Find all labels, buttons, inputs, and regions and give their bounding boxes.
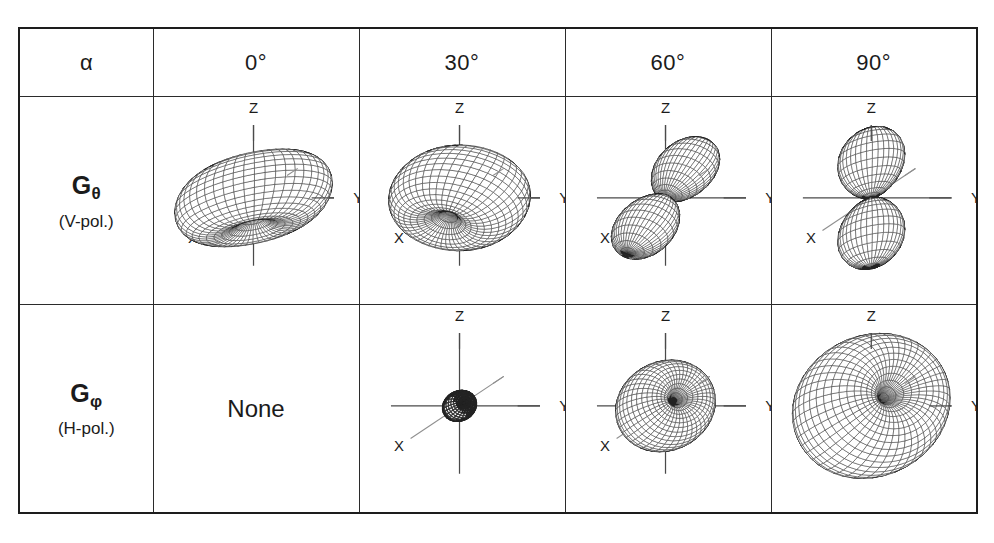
plot-two-lobes-vertical: ZYX (772, 97, 977, 304)
plot-cell-gtheta-30: ZYX (359, 97, 565, 305)
row-label-g: G (72, 171, 92, 199)
mesh-surface (174, 149, 331, 247)
angle-label-60: 60° (651, 50, 686, 75)
radiation-pattern-svg: ZYX (566, 305, 771, 512)
header-cell-alpha: α (19, 28, 153, 97)
plot-cell-gtheta-0: ZYX (153, 97, 359, 305)
axis-label-y: Y (970, 190, 976, 206)
axis-label-y: Y (559, 189, 565, 206)
axis-label-z: Z (660, 99, 669, 116)
row-label-main: Gφ (20, 375, 153, 414)
plot-torus-vertical-big: ZYX (772, 305, 977, 512)
mesh-surface (615, 360, 715, 452)
axis-label-z: Z (454, 99, 463, 116)
pattern-table: α 0° 30° 60° 90° Gθ (18, 27, 978, 514)
plot-tiny-blob: ZYX (360, 305, 565, 512)
axis-label-x: X (599, 437, 609, 454)
plot-two-lobes-tilted: ZYX (566, 97, 771, 304)
table-row-g-theta: Gθ (V-pol.) ZYX ZYX ZYX ZYX (19, 97, 977, 305)
plot-cell-gtheta-90: ZYX (771, 97, 977, 305)
angle-label-90: 90° (856, 50, 891, 75)
angle-label-30: 30° (445, 50, 480, 75)
axis-label-x: X (805, 231, 815, 247)
axis-label-y: Y (970, 398, 976, 414)
axis-label-y: Y (765, 397, 771, 414)
radiation-pattern-figure: α 0° 30° 60° 90° Gθ (18, 27, 975, 514)
plot-cell-gphi-0: None (153, 305, 359, 513)
row-label-content: Gθ (V-pol.) (20, 167, 153, 234)
row-label-g-phi: Gφ (H-pol.) (19, 305, 153, 513)
radiation-pattern-svg: ZYX (566, 97, 771, 304)
header-cell-angle-0: 0° (153, 28, 359, 97)
axis-label-z: Z (454, 307, 463, 324)
axis-label-x: X (599, 230, 609, 247)
radiation-pattern-svg: ZYX (772, 305, 977, 512)
row-label-g: G (70, 379, 90, 407)
axis-label-x: X (393, 437, 403, 454)
plot-torus-vertical-mid: ZYX (566, 305, 771, 512)
plot-torus-tilted-30: ZYX (360, 97, 565, 304)
row-label-content: Gφ (H-pol.) (20, 375, 153, 442)
axis-label-z: Z (866, 101, 875, 117)
radiation-pattern-svg: ZYX (360, 305, 565, 512)
row-label-g-theta: Gθ (V-pol.) (19, 97, 153, 305)
angle-label-0: 0° (245, 50, 267, 75)
radiation-pattern-svg: ZYX (154, 97, 359, 304)
none-label: None (227, 395, 284, 422)
row-label-polarization: (V-pol.) (20, 210, 153, 235)
plot-cell-gphi-60: ZYX (565, 305, 771, 513)
axis-label-z: Z (660, 307, 669, 324)
alpha-symbol: α (80, 50, 93, 75)
plot-torus-horizontal: ZYX (154, 97, 359, 304)
axis-label-x: X (393, 230, 403, 247)
row-label-polarization: (H-pol.) (20, 417, 153, 442)
header-cell-angle-90: 90° (771, 28, 977, 97)
table-header-row: α 0° 30° 60° 90° (19, 28, 977, 97)
mesh-surface (792, 334, 950, 479)
axis-label-z: Z (866, 308, 875, 324)
radiation-pattern-svg: ZYX (772, 97, 977, 304)
plot-cell-gphi-30: ZYX (359, 305, 565, 513)
axis-label-y: Y (765, 189, 771, 206)
mesh-surface (388, 146, 530, 252)
row-label-subscript: φ (90, 392, 102, 411)
axis-label-y: Y (353, 189, 359, 206)
axis-label-z: Z (248, 99, 257, 116)
plot-cell-gtheta-60: ZYX (565, 97, 771, 305)
mesh-surface (442, 391, 476, 422)
axis-label-y: Y (559, 397, 565, 414)
header-cell-angle-30: 30° (359, 28, 565, 97)
table-row-g-phi: Gφ (H-pol.) None ZYX ZYX ZYX (19, 305, 977, 513)
row-label-main: Gθ (20, 167, 153, 206)
radiation-pattern-svg: ZYX (360, 97, 565, 304)
plot-cell-gphi-90: ZYX (771, 305, 977, 513)
header-cell-angle-60: 60° (565, 28, 771, 97)
row-label-subscript: θ (91, 184, 100, 203)
